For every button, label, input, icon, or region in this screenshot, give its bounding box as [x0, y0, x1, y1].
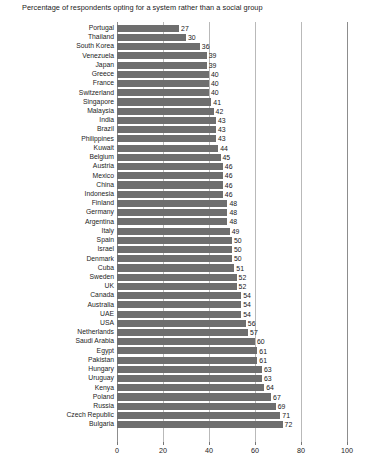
bar-row: Bulgaria72: [0, 420, 373, 429]
x-tick-label-20: 20: [159, 446, 167, 455]
bar-value-label: 41: [213, 98, 221, 107]
chart-title: Percentage of respondents opting for a s…: [22, 3, 263, 12]
bar-row: Finland48: [0, 199, 373, 208]
bar: [117, 246, 232, 253]
bar: [117, 108, 214, 115]
bar-value-label: 67: [273, 393, 281, 402]
bar-value-label: 52: [239, 282, 247, 291]
category-label: Singapore: [4, 98, 114, 106]
bar-row: Argentina48: [0, 218, 373, 227]
category-label: Belgium: [4, 153, 114, 161]
bar-value-label: 40: [211, 88, 219, 97]
bar-value-label: 54: [243, 291, 251, 300]
bar: [117, 191, 223, 198]
category-label: Philippines: [4, 135, 114, 143]
bar-row: Thailand30: [0, 33, 373, 42]
bar: [117, 34, 186, 41]
bar-value-label: 46: [225, 190, 233, 199]
category-label: South Korea: [4, 42, 114, 50]
category-label: France: [4, 79, 114, 87]
category-label: Indonesia: [4, 190, 114, 198]
category-label: UK: [4, 282, 114, 290]
bar: [117, 403, 276, 410]
category-label: Denmark: [4, 255, 114, 263]
bar: [117, 412, 280, 419]
bar-row: Netherlands57: [0, 328, 373, 337]
bar-value-label: 39: [209, 51, 217, 60]
category-label: Kuwait: [4, 144, 114, 152]
category-label: Japan: [4, 61, 114, 69]
bar-value-label: 72: [285, 420, 293, 429]
category-label: Malaysia: [4, 107, 114, 115]
x-tick-label-0: 0: [115, 446, 119, 455]
category-label: Sweden: [4, 273, 114, 281]
bar-value-label: 50: [234, 236, 242, 245]
bar: [117, 384, 264, 391]
bar: [117, 237, 232, 244]
bar-value-label: 27: [181, 24, 189, 33]
category-label: Spain: [4, 236, 114, 244]
bar-row: Egypt61: [0, 347, 373, 356]
bar-value-label: 71: [282, 411, 290, 420]
bar-row: Japan39: [0, 61, 373, 70]
category-label: Mexico: [4, 172, 114, 180]
bar: [117, 264, 234, 271]
bar-row: Sweden52: [0, 273, 373, 282]
bar-value-label: 43: [218, 125, 226, 134]
category-label: Australia: [4, 301, 114, 309]
bar-row: Spain50: [0, 236, 373, 245]
bar-row: UAE54: [0, 310, 373, 319]
bar: [117, 329, 248, 336]
bar-row: Philippines43: [0, 135, 373, 144]
bar: [117, 117, 216, 124]
bar-row: Cuba51: [0, 264, 373, 273]
bar-value-label: 39: [209, 61, 217, 70]
category-label: Brazil: [4, 125, 114, 133]
bar: [117, 320, 246, 327]
bar-value-label: 40: [211, 79, 219, 88]
bar-row: India43: [0, 116, 373, 125]
category-label: Thailand: [4, 33, 114, 41]
bar-row: Pakistan61: [0, 356, 373, 365]
bar-row: Uruguay63: [0, 374, 373, 383]
bar: [117, 274, 237, 281]
category-label: Cuba: [4, 264, 114, 272]
x-tick-label-80: 80: [297, 446, 305, 455]
x-tick-mark-40: [209, 442, 210, 445]
category-label: Poland: [4, 393, 114, 401]
category-label: Hungary: [4, 365, 114, 373]
bar: [117, 126, 216, 133]
bar: [117, 421, 283, 428]
bar: [117, 181, 223, 188]
bar-value-label: 46: [225, 171, 233, 180]
bar-row: Malaysia42: [0, 107, 373, 116]
bar-row: Germany48: [0, 208, 373, 217]
bar: [117, 98, 211, 105]
bar: [117, 154, 221, 161]
category-label: Germany: [4, 208, 114, 216]
bar-row: Kuwait44: [0, 144, 373, 153]
category-label: UAE: [4, 310, 114, 318]
category-label: Israel: [4, 245, 114, 253]
bar-row: Kenya64: [0, 384, 373, 393]
bar: [117, 135, 216, 142]
bar: [117, 255, 232, 262]
bar: [117, 311, 241, 318]
bar: [117, 301, 241, 308]
bar: [117, 172, 223, 179]
bar: [117, 145, 218, 152]
bar-value-label: 36: [202, 42, 210, 51]
bar-row: Saudi Arabia60: [0, 337, 373, 346]
bar-value-label: 45: [223, 153, 231, 162]
bar: [117, 209, 227, 216]
bar-row: Belgium45: [0, 153, 373, 162]
bar-rows: Portugal27Thailand30South Korea36Venezue…: [0, 22, 373, 442]
bar: [117, 80, 209, 87]
category-label: Austria: [4, 162, 114, 170]
bar: [117, 43, 200, 50]
bar-value-label: 64: [266, 383, 274, 392]
bar: [117, 393, 271, 400]
bar-value-label: 61: [259, 356, 267, 365]
bar-value-label: 30: [188, 33, 196, 42]
bar: [117, 283, 237, 290]
